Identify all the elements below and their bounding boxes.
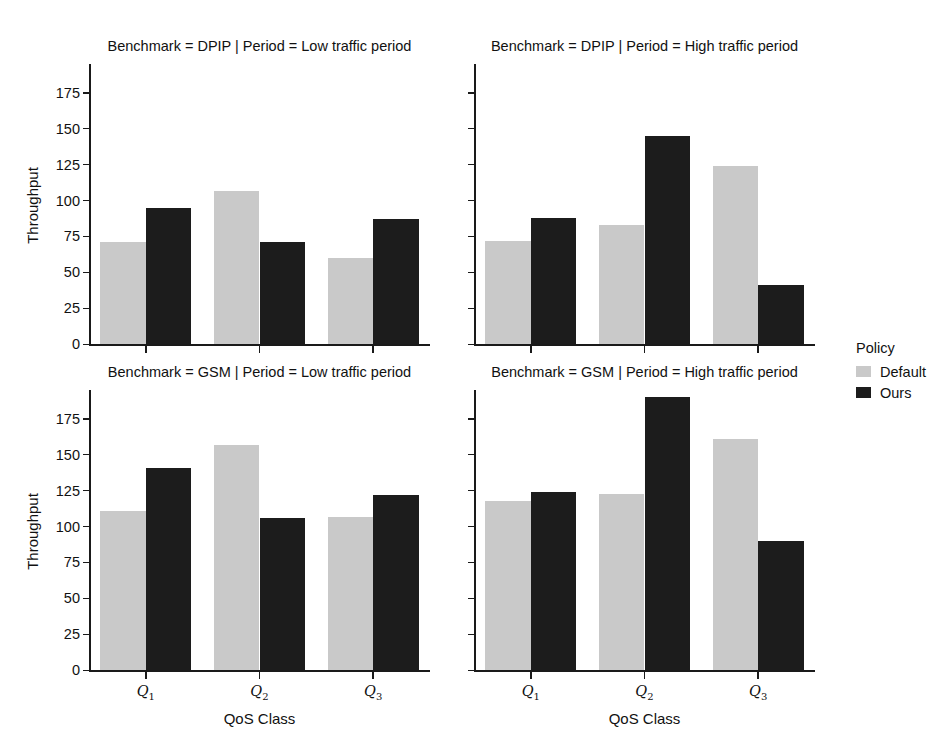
bar-dpip-high-q2-ours [645, 136, 690, 344]
y-tick-label: 125 [56, 483, 80, 498]
x-tick-mark [530, 672, 532, 679]
y-tick-mark [468, 344, 475, 346]
bar-gsm-low-q3-ours [373, 495, 418, 670]
y-tick-label: 50 [64, 591, 80, 606]
y-axis-label-top: Throughput [23, 167, 40, 244]
y-axis-spine [89, 390, 91, 672]
y-tick-label: 150 [56, 447, 80, 462]
bar-dpip-high-q1-default [485, 241, 530, 344]
x-tick-mark [372, 672, 374, 679]
figure-canvas: Throughput Throughput QoS Class QoS Clas… [0, 0, 946, 746]
bar-dpip-low-q3-ours [373, 219, 418, 344]
y-axis-spine [89, 64, 91, 346]
bar-dpip-high-q2-default [599, 225, 644, 344]
bar-dpip-low-q1-default [100, 242, 145, 344]
y-tick-mark [468, 634, 475, 636]
plot-area-dpip-low: 0255075100125150175 [89, 64, 430, 346]
y-tick-label: 175 [56, 411, 80, 426]
x-tick-label-q1: Q1 [137, 683, 155, 702]
y-tick-mark [83, 526, 90, 528]
y-tick-label: 25 [64, 301, 80, 316]
y-tick-label: 125 [56, 157, 80, 172]
facet-panel-gsm-high: Benchmark = GSM | Period = High traffic … [474, 390, 815, 672]
y-tick-mark [468, 490, 475, 492]
legend-swatch-ours [856, 387, 871, 398]
bar-gsm-high-q1-default [485, 501, 530, 671]
y-tick-mark [83, 598, 90, 600]
x-tick-label-q3: Q3 [749, 683, 767, 702]
bar-dpip-low-q1-ours [146, 208, 191, 345]
x-axis-label-right: QoS Class [474, 710, 815, 727]
legend-item-ours[interactable]: Ours [856, 382, 946, 403]
y-tick-mark [83, 418, 90, 420]
facet-panel-dpip-high: Benchmark = DPIP | Period = High traffic… [474, 64, 815, 346]
y-tick-mark [83, 454, 90, 456]
facet-title-gsm-low: Benchmark = GSM | Period = Low traffic p… [89, 364, 430, 380]
plot-area-gsm-high: Q1Q2Q3 [474, 390, 815, 672]
facet-title-gsm-high: Benchmark = GSM | Period = High traffic … [474, 364, 815, 380]
x-tick-mark [145, 672, 147, 679]
y-tick-label: 175 [56, 85, 80, 100]
y-tick-mark [83, 308, 90, 310]
x-tick-label-q1: Q1 [522, 683, 540, 702]
y-tick-mark [468, 598, 475, 600]
bar-gsm-high-q2-ours [645, 397, 690, 670]
legend-label-default: Default [880, 364, 926, 380]
bar-gsm-low-q3-default [328, 517, 373, 671]
bar-dpip-low-q2-ours [260, 242, 305, 344]
legend: Policy Default Ours [856, 340, 946, 403]
x-tick-mark [644, 672, 646, 679]
x-tick-mark [757, 346, 759, 353]
x-tick-label-q2: Q2 [250, 683, 268, 702]
bar-gsm-low-q2-default [214, 445, 259, 671]
y-tick-mark [468, 164, 475, 166]
y-tick-mark [468, 526, 475, 528]
bar-gsm-low-q1-default [100, 511, 145, 671]
facet-panel-gsm-low: Benchmark = GSM | Period = Low traffic p… [89, 390, 430, 672]
bar-dpip-high-q3-default [713, 166, 758, 344]
y-tick-mark [468, 92, 475, 94]
bar-gsm-high-q3-ours [758, 541, 803, 670]
y-tick-mark [468, 308, 475, 310]
x-tick-mark [530, 346, 532, 353]
y-tick-mark [83, 272, 90, 274]
legend-title: Policy [856, 340, 946, 356]
y-tick-mark [83, 128, 90, 130]
y-tick-mark [468, 670, 475, 672]
y-tick-mark [468, 200, 475, 202]
y-tick-mark [83, 670, 90, 672]
bar-gsm-high-q2-default [599, 494, 644, 671]
bar-gsm-high-q1-ours [531, 492, 576, 670]
y-tick-mark [468, 562, 475, 564]
y-tick-mark [83, 200, 90, 202]
bar-gsm-high-q3-default [713, 439, 758, 670]
y-tick-mark [83, 164, 90, 166]
y-tick-mark [468, 418, 475, 420]
x-tick-mark [259, 672, 261, 679]
legend-label-ours: Ours [880, 385, 911, 401]
y-tick-mark [83, 562, 90, 564]
x-tick-mark [757, 672, 759, 679]
legend-item-default[interactable]: Default [856, 361, 946, 382]
bar-dpip-high-q1-ours [531, 218, 576, 344]
x-tick-mark [145, 346, 147, 353]
y-tick-mark [468, 454, 475, 456]
x-tick-mark [644, 346, 646, 353]
y-tick-label: 150 [56, 121, 80, 136]
plot-area-gsm-low: 0255075100125150175Q1Q2Q3 [89, 390, 430, 672]
y-tick-label: 0 [72, 663, 80, 678]
plot-area-dpip-high [474, 64, 815, 346]
y-tick-mark [83, 92, 90, 94]
legend-swatch-default [856, 366, 871, 377]
y-tick-label: 100 [56, 193, 80, 208]
bar-gsm-low-q1-ours [146, 468, 191, 671]
y-tick-label: 25 [64, 627, 80, 642]
y-axis-spine [474, 64, 476, 346]
y-tick-mark [468, 128, 475, 130]
bar-dpip-high-q3-ours [758, 285, 803, 344]
y-tick-label: 75 [64, 555, 80, 570]
y-tick-mark [83, 236, 90, 238]
facet-panel-dpip-low: Benchmark = DPIP | Period = Low traffic … [89, 64, 430, 346]
bar-dpip-low-q2-default [214, 191, 259, 345]
x-tick-label-q2: Q2 [635, 683, 653, 702]
